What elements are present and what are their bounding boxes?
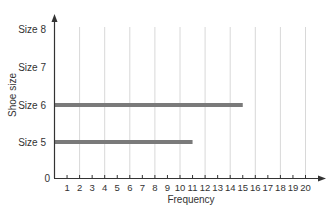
y-axis-label: Shoe size (7, 73, 18, 117)
x-tick-label: 20 (300, 182, 311, 193)
grid-lines (80, 27, 306, 178)
x-tick-label: 9 (165, 182, 170, 193)
x-tick-label: 11 (188, 182, 198, 193)
x-tick-label: 5 (115, 182, 120, 193)
y-axis-arrow-icon (52, 14, 58, 22)
x-tick-label: 18 (275, 182, 286, 193)
x-tick-label: 19 (288, 182, 299, 193)
y-tick-label: Size 8 (18, 24, 46, 35)
x-axis-arrow-icon (318, 176, 326, 182)
y-tick-label: Size 7 (18, 62, 46, 73)
x-tick-label: 7 (140, 182, 145, 193)
x-tick-label: 15 (237, 182, 248, 193)
x-tick-label: 13 (212, 182, 223, 193)
y-tick-label: Size 6 (18, 100, 46, 111)
x-tick-label: 2 (77, 182, 82, 193)
y-tick-labels: Size 5Size 6Size 7Size 8 (18, 24, 46, 148)
x-tick-label: 16 (250, 182, 261, 193)
y-origin-label: 0 (44, 173, 50, 184)
x-tick-label: 14 (225, 182, 236, 193)
x-tick-label: 3 (90, 182, 95, 193)
x-tick-label: 1 (64, 182, 69, 193)
bar-size-6 (55, 103, 243, 107)
bar-size-5 (55, 140, 193, 144)
x-tick-label: 12 (200, 182, 211, 193)
x-axis-label: Frequency (167, 194, 214, 205)
x-ticks: 1234567891011121314151617181920 (64, 175, 310, 193)
x-tick-label: 17 (263, 182, 274, 193)
y-tick-label: Size 5 (18, 137, 46, 148)
x-tick-label: 6 (127, 182, 132, 193)
x-tick-label: 10 (175, 182, 186, 193)
bars (55, 103, 243, 144)
axes (52, 14, 327, 182)
x-tick-label: 8 (152, 182, 157, 193)
x-tick-label: 4 (102, 182, 107, 193)
bar-chart: 1234567891011121314151617181920 Size 5Si… (0, 0, 327, 217)
